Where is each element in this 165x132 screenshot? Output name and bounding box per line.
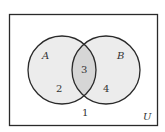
region-a-only-count: 2 xyxy=(56,83,62,94)
set-b-label: B xyxy=(116,50,124,61)
venn-diagram: A B 2 4 3 1 U xyxy=(0,0,165,132)
set-a-label: A xyxy=(41,50,49,61)
intersection-count: 3 xyxy=(81,64,87,75)
outside-count: 1 xyxy=(82,107,88,118)
universe-label: U xyxy=(143,111,152,122)
region-b-only-count: 4 xyxy=(103,83,109,94)
